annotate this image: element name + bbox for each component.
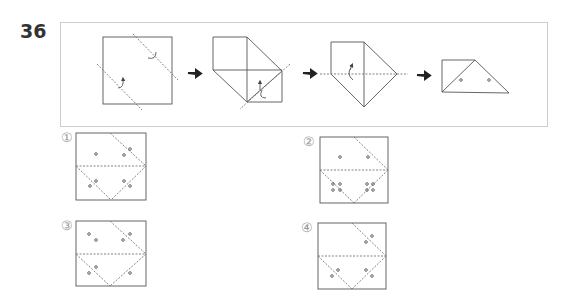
fold-arrow-icon: [261, 90, 266, 98]
step-2: [213, 37, 290, 109]
fold-arrow-icon: [148, 52, 156, 58]
option-1-figure: [76, 133, 146, 200]
folding-diagram: [0, 0, 571, 305]
option-3-button[interactable]: ③: [61, 218, 73, 233]
option-2-figure: [320, 137, 388, 203]
arrow-right-icon: [303, 70, 316, 77]
option-1-button[interactable]: ①: [61, 130, 73, 145]
option-3-figure: [76, 221, 146, 286]
option-4-button[interactable]: ④: [301, 220, 313, 235]
option-4-figure: [318, 223, 386, 289]
step-1: [97, 34, 178, 110]
option-2-button[interactable]: ②: [303, 134, 315, 149]
arrow-right-icon: [417, 72, 430, 79]
sequence-frame: [61, 23, 548, 127]
fold-arrow-icon: [118, 79, 123, 88]
hole-icon: [488, 79, 491, 82]
arrow-right-icon: [188, 70, 201, 77]
hole-icon: [460, 79, 463, 82]
step-3: [320, 42, 408, 107]
step-4-punched: [442, 60, 509, 93]
